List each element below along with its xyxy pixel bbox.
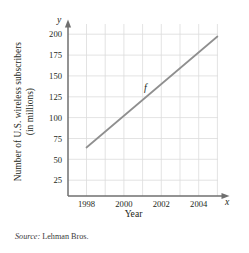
source-label: Source: (15, 232, 40, 241)
x-axis-title: Year (0, 208, 249, 219)
y-axis-letter: y (57, 14, 61, 25)
curve-label-f: f (144, 82, 147, 93)
y-axis (65, 20, 71, 197)
y-tick-label-50: 50 (38, 155, 62, 165)
y-axis-title-line1: Number of U.S. wireless subscribers (13, 19, 25, 205)
x-axis-letter: x (225, 196, 229, 207)
y-tick-label-125: 125 (38, 92, 62, 102)
source-value: Lehman Bros. (42, 232, 88, 241)
y-axis-title: Number of U.S. wireless subscribers (in … (13, 19, 36, 205)
x-axis-title-text: Year (125, 208, 143, 219)
y-tick-label-150: 150 (38, 71, 62, 81)
y-tick-label-75: 75 (38, 134, 62, 144)
source-note: Source: Lehman Bros. (15, 232, 89, 241)
y-tick-label-25: 25 (38, 175, 62, 185)
y-tick-label-175: 175 (38, 50, 62, 60)
data-line-f (87, 37, 218, 148)
y-tick-label-100: 100 (38, 113, 62, 123)
plot-area: 200 175 150 125 100 75 50 25 1998 2000 2… (0, 0, 249, 253)
chart-figure: 200 175 150 125 100 75 50 25 1998 2000 2… (0, 0, 249, 253)
vertical-gridlines (87, 24, 218, 196)
y-axis-title-line2: (in millions) (25, 19, 37, 205)
y-tick-label-200: 200 (38, 29, 62, 39)
